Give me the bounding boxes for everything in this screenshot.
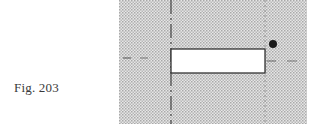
black-dot-marker	[269, 40, 277, 48]
white-rectangle	[171, 49, 265, 73]
figure-caption: Fig. 203	[14, 80, 59, 96]
figure-diagram	[119, 0, 307, 124]
